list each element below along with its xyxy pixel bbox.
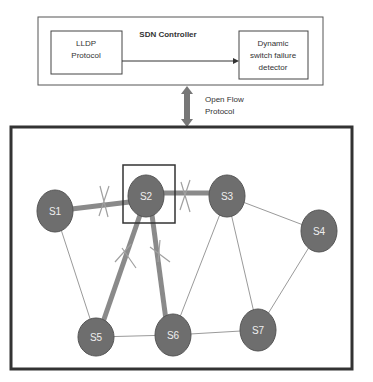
detector-line2: switch failure bbox=[250, 51, 297, 60]
switch-label: S6 bbox=[167, 330, 180, 341]
openflow-label-line2: Protocol bbox=[205, 107, 235, 116]
switch-label: S4 bbox=[313, 226, 326, 237]
lldp-line1: LLDP bbox=[76, 39, 96, 48]
switch-s3[interactable]: S3 bbox=[209, 175, 245, 217]
switch-label: S3 bbox=[221, 191, 234, 202]
switch-s4[interactable]: S4 bbox=[301, 210, 337, 252]
sdn-diagram: SDN Controller LLDP Protocol Dynamic swi… bbox=[0, 0, 373, 382]
switch-label: S2 bbox=[140, 191, 153, 202]
openflow-double-arrow-icon bbox=[181, 86, 193, 127]
lldp-line2: Protocol bbox=[71, 51, 101, 60]
switch-s7[interactable]: S7 bbox=[240, 309, 276, 351]
switch-s6[interactable]: S6 bbox=[155, 314, 191, 356]
switch-label: S7 bbox=[252, 325, 265, 336]
controller-title: SDN Controller bbox=[139, 30, 196, 39]
detector-line1: Dynamic bbox=[257, 39, 288, 48]
switch-label: S1 bbox=[49, 206, 62, 217]
switch-s5[interactable]: S5 bbox=[78, 318, 114, 356]
switch-label: S5 bbox=[90, 332, 103, 343]
switch-s1[interactable]: S1 bbox=[37, 190, 73, 232]
switch-s2[interactable]: S2 bbox=[128, 175, 164, 217]
openflow-label-line1: Open Flow bbox=[205, 95, 244, 104]
detector-line3: detector bbox=[259, 63, 288, 72]
